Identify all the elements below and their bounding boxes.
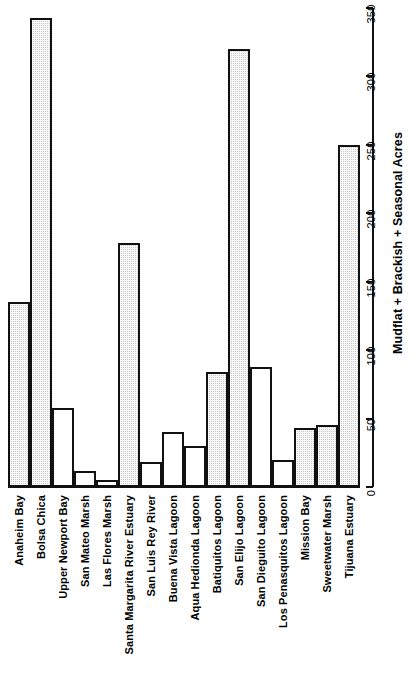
bar-slot [206, 8, 228, 487]
category-axis-label: Las Flores Marsh [101, 495, 113, 587]
bar[interactable] [228, 49, 250, 487]
value-axis-tick-label: 350 [365, 5, 377, 24]
bar-slot [30, 8, 52, 487]
bar[interactable] [162, 432, 184, 487]
category-axis-label: Los Penasquitos Lagoon [277, 495, 289, 628]
category-label-slot: Los Penasquitos Lagoon [272, 492, 294, 677]
category-axis-label: Anaheim Bay [13, 495, 25, 566]
bar[interactable] [30, 18, 52, 487]
category-axis-label: San Dieguito Lagoon [255, 495, 267, 607]
category-label-slot: San Mateo Marsh [74, 492, 96, 677]
category-label-slot: Santa Margarita River Estuary [118, 492, 140, 677]
bar-slot [272, 8, 294, 487]
bar[interactable] [52, 408, 74, 487]
category-label-slot: Aqua Hedionda Lagoon [184, 492, 206, 677]
bars-container [8, 8, 360, 487]
category-label-slot: Batiquitos Lagoon [206, 492, 228, 677]
category-label-slot: Las Flores Marsh [96, 492, 118, 677]
category-axis-label: Batiquitos Lagoon [211, 495, 223, 593]
category-axis-label: Santa Margarita River Estuary [123, 495, 135, 654]
bar[interactable] [8, 302, 30, 487]
category-label-slot: Sweetwater Marsh [316, 492, 338, 677]
category-label-slot: Tijuana Estuary [338, 492, 360, 677]
bar[interactable] [316, 425, 338, 487]
bar-slot [294, 8, 316, 487]
value-axis-tick-label: 200 [365, 210, 377, 229]
category-axis-label: Sweetwater Marsh [321, 495, 333, 593]
category-axis-line [8, 485, 360, 488]
category-axis-label: San Elijo Lagoon [233, 495, 245, 586]
bar-slot [118, 8, 140, 487]
value-axis-tick [366, 486, 373, 488]
category-axis-label: Upper Newport Bay [57, 495, 69, 599]
bar[interactable] [184, 446, 206, 487]
category-axis-label: San Mateo Marsh [79, 495, 91, 587]
bar[interactable] [250, 367, 272, 487]
bar-slot [74, 8, 96, 487]
bar-slot [250, 8, 272, 487]
value-axis-tick-label: 100 [365, 347, 377, 366]
bar-slot [338, 8, 360, 487]
category-label-slot: Bolsa Chica [30, 492, 52, 677]
category-axis-label: Tijuana Estuary [343, 495, 355, 578]
category-label-slot: Mission Bay [294, 492, 316, 677]
category-axis-label: Buena Vista Lagoon [167, 495, 179, 602]
category-label-slot: Anaheim Bay [8, 492, 30, 677]
bar-slot [8, 8, 30, 487]
category-axis-label: San Luis Rey River [145, 495, 157, 596]
bar-slot [162, 8, 184, 487]
bar[interactable] [140, 462, 162, 487]
bar-slot [184, 8, 206, 487]
value-axis-tick-label: 300 [365, 73, 377, 92]
category-label-slot: Buena Vista Lagoon [162, 492, 184, 677]
category-label-slot: San Elijo Lagoon [228, 492, 250, 677]
bar-slot [52, 8, 74, 487]
plot-area [8, 8, 360, 487]
value-axis-tick-label: 150 [365, 278, 377, 297]
bar[interactable] [294, 428, 316, 487]
category-axis-label: Aqua Hedionda Lagoon [189, 495, 201, 620]
value-axis-title: Mudflat + Brackish + Seasonal Acres [391, 132, 405, 354]
bar-slot [140, 8, 162, 487]
bar-slot [316, 8, 338, 487]
bar-slot [228, 8, 250, 487]
bar-chart-figure: 050100150200250300350 Mudflat + Brackish… [0, 0, 416, 679]
value-axis-tick-label: 250 [365, 141, 377, 160]
category-label-slot: Upper Newport Bay [52, 492, 74, 677]
category-axis-label: Bolsa Chica [35, 495, 47, 559]
category-label-slot: San Dieguito Lagoon [250, 492, 272, 677]
bar-slot [96, 8, 118, 487]
category-axis-label: Mission Bay [299, 495, 311, 560]
category-label-slot: San Luis Rey River [140, 492, 162, 677]
value-axis-tick-label: 0 [365, 490, 377, 496]
bar[interactable] [206, 372, 228, 487]
value-axis-tick-label: 50 [365, 418, 377, 431]
bar[interactable] [118, 243, 140, 487]
bar[interactable] [272, 460, 294, 487]
category-axis-labels: Anaheim BayBolsa ChicaUpper Newport BayS… [8, 492, 360, 677]
bar[interactable] [338, 145, 360, 487]
